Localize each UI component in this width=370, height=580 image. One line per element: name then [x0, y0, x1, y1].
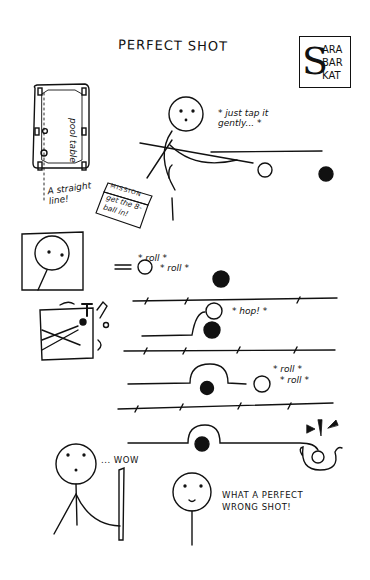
sfx-roll-3: * roll *: [273, 364, 302, 374]
sfx-roll-4: * roll *: [280, 375, 309, 385]
speech-bubble-text: * just tap it gently... *: [218, 108, 306, 128]
reaction-text: ... WOW: [101, 455, 139, 466]
roll-sequence-drawing: [115, 260, 342, 470]
comic-title: PERFECT SHOT: [118, 37, 228, 54]
signature-line-2: BAR: [322, 57, 343, 68]
pocket-closeup-drawing: [40, 302, 109, 360]
closing-line-2: WRONG SHOT!: [222, 502, 291, 513]
signature-line-3: KAT: [322, 70, 341, 81]
pool-table-label: pool table: [68, 118, 78, 163]
sfx-hop: * hop! *: [232, 306, 267, 316]
closeup-face-drawing: [22, 232, 83, 290]
signature-line-1: ARA: [322, 44, 342, 55]
closing-line-1: WHAT A PERFECT: [222, 490, 303, 501]
sfx-roll-1: * roll *: [138, 253, 167, 263]
artist-signature: S ARA BAR KAT: [299, 36, 351, 88]
sfx-roll-2: * roll *: [160, 263, 189, 273]
